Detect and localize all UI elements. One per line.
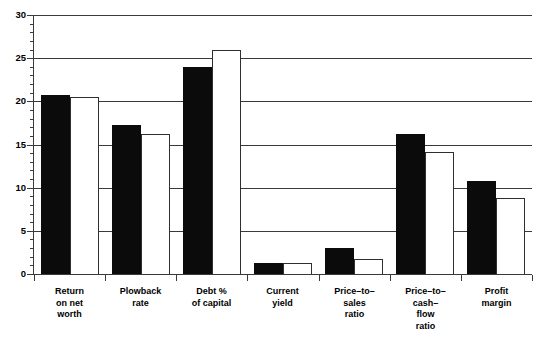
- bar-series-1-3: [254, 263, 283, 274]
- y-minor-tick-2: [30, 257, 34, 258]
- x-tick-0: [34, 275, 35, 281]
- x-tick-6: [461, 275, 462, 281]
- y-minor-tick-14: [30, 153, 34, 154]
- bar-series-2-0: [70, 97, 99, 274]
- y-minor-tick-17: [30, 127, 34, 128]
- y-tick-label-15: 15: [2, 140, 26, 150]
- bar-series-2-3: [283, 263, 312, 274]
- y-minor-tick-28: [30, 32, 34, 33]
- y-minor-tick-18: [30, 119, 34, 120]
- y-tick-label-25: 25: [2, 53, 26, 63]
- y-tick-20: [27, 101, 34, 102]
- bar-group: [396, 15, 454, 274]
- y-minor-tick-8: [30, 205, 34, 206]
- y-tick-0: [27, 274, 34, 275]
- bar-series-1-5: [396, 134, 425, 274]
- category-label-4: Price–to– sales ratio: [319, 286, 390, 321]
- x-tick-end: [532, 275, 533, 281]
- y-minor-tick-7: [30, 214, 34, 215]
- y-tick-15: [27, 145, 34, 146]
- y-axis-labels: 051015202530: [0, 0, 26, 341]
- y-minor-tick-12: [30, 170, 34, 171]
- bar-group: [183, 15, 241, 274]
- bar-chart: 051015202530 Return on net worthPlowback…: [0, 0, 542, 341]
- x-tick-2: [176, 275, 177, 281]
- bar-series-1-6: [467, 181, 496, 274]
- y-minor-tick-21: [30, 93, 34, 94]
- y-tick-label-30: 30: [2, 10, 26, 20]
- y-minor-tick-16: [30, 136, 34, 137]
- x-axis-line: [33, 274, 532, 275]
- bar-series-1-1: [112, 125, 141, 274]
- y-tick-25: [27, 58, 34, 59]
- bar-group: [112, 15, 170, 274]
- y-minor-tick-4: [30, 239, 34, 240]
- bar-group: [467, 15, 525, 274]
- y-minor-tick-26: [30, 50, 34, 51]
- bar-series-1-2: [183, 67, 212, 274]
- y-minor-tick-13: [30, 162, 34, 163]
- category-label-2: Debt % of capital: [176, 286, 247, 309]
- bar-series-2-1: [141, 134, 170, 274]
- x-tick-3: [247, 275, 248, 281]
- y-tick-label-0: 0: [2, 269, 26, 279]
- y-tick-label-20: 20: [2, 96, 26, 106]
- y-minor-tick-19: [30, 110, 34, 111]
- y-tick-5: [27, 231, 34, 232]
- bar-series-1-0: [41, 95, 70, 274]
- x-tick-5: [390, 275, 391, 281]
- bar-series-2-5: [425, 152, 454, 274]
- bar-group: [254, 15, 312, 274]
- y-minor-tick-29: [30, 24, 34, 25]
- y-minor-tick-27: [30, 41, 34, 42]
- y-tick-label-10: 10: [2, 183, 26, 193]
- category-label-3: Current yield: [247, 286, 318, 309]
- y-minor-tick-11: [30, 179, 34, 180]
- category-label-0: Return on net worth: [34, 286, 105, 321]
- bar-series-2-2: [212, 50, 241, 274]
- category-label-1: Plowback rate: [105, 286, 176, 309]
- bar-series-1-4: [325, 248, 354, 274]
- bar-group: [41, 15, 99, 274]
- y-tick-label-5: 5: [2, 226, 26, 236]
- y-minor-tick-9: [30, 196, 34, 197]
- y-tick-10: [27, 188, 34, 189]
- y-tick-30: [27, 15, 34, 16]
- bar-series-2-4: [354, 259, 383, 274]
- y-minor-tick-3: [30, 248, 34, 249]
- y-minor-tick-22: [30, 84, 34, 85]
- y-minor-tick-1: [30, 265, 34, 266]
- x-tick-4: [319, 275, 320, 281]
- bar-group: [325, 15, 383, 274]
- category-label-6: Profit margin: [461, 286, 532, 309]
- y-minor-tick-24: [30, 67, 34, 68]
- bar-series-2-6: [496, 198, 525, 274]
- x-tick-1: [105, 275, 106, 281]
- y-minor-tick-23: [30, 75, 34, 76]
- category-label-5: Price–to– cash– flow ratio: [390, 286, 461, 332]
- y-minor-tick-6: [30, 222, 34, 223]
